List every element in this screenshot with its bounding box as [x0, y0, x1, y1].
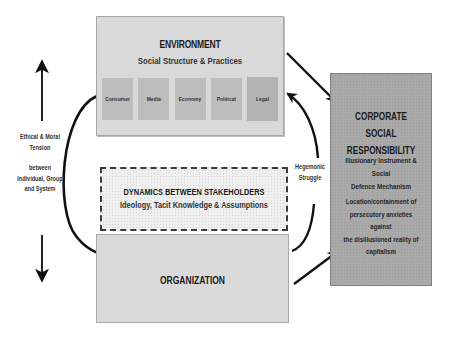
csr-desc-line1: Location/containment of [343, 196, 419, 209]
csr-box: CORPORATE SOCIAL RESPONSIBILITY Illusion… [330, 73, 432, 286]
csr-sub-line1: Illusionary Instrument & Social [342, 154, 420, 180]
left-label-line4: Individual, Group [10, 174, 70, 185]
dynamics-box: DYNAMICS BETWEEN STAKEHOLDERS Ideology, … [100, 167, 288, 231]
csr-title-line1: CORPORATE SOCIAL [340, 108, 422, 142]
element-media: Media [138, 78, 169, 120]
csr-desc-line2: persecutory anxieties against [343, 209, 419, 234]
environment-box: ENVIRONMENT Social Structure & Practices… [96, 16, 284, 136]
csr-subtitle: Illusionary Instrument & Social Defence … [342, 154, 420, 193]
environment-title: ENVIRONMENT [111, 39, 269, 50]
hegemonic-struggle-label: Hegemonic Struggle [293, 161, 327, 183]
left-label-line5: and System [10, 184, 70, 195]
element-legal: Legal [247, 77, 278, 121]
element-political: Political [211, 78, 242, 120]
right-label-line2: Struggle [293, 172, 327, 183]
environment-subtitle: Social Structure & Practices [114, 55, 267, 66]
csr-desc-line3: the disillusioned reality of [343, 234, 419, 247]
left-label-line3: between [10, 163, 70, 174]
dynamics-title: DYNAMICS BETWEEN STAKEHOLDERS [119, 187, 270, 197]
element-consumer: Consumer [102, 78, 133, 120]
element-economy: Economy [175, 78, 206, 120]
csr-description: Location/containment of persecutory anxi… [343, 196, 419, 259]
organization-title: ORGANIZATION [111, 275, 273, 286]
csr-desc-line4: capitalism [343, 246, 419, 259]
csr-sub-line2: Defence Mechanism [342, 180, 420, 193]
environment-elements: Consumer Media Economy Political Legal [102, 78, 278, 120]
organization-box: ORGANIZATION [96, 234, 289, 323]
ethical-tension-label: Ethical & Moral Tension between Individu… [10, 132, 70, 195]
right-label-line1: Hegemonic [293, 161, 327, 172]
left-label-line2: Tension [10, 143, 70, 154]
dynamics-subtitle: Ideology, Tacit Knowledge & Assumptions [119, 200, 270, 210]
left-label-line1: Ethical & Moral [10, 132, 70, 143]
arrow-env-to-csr-icon [287, 53, 335, 101]
csr-title: CORPORATE SOCIAL RESPONSIBILITY [340, 108, 422, 159]
